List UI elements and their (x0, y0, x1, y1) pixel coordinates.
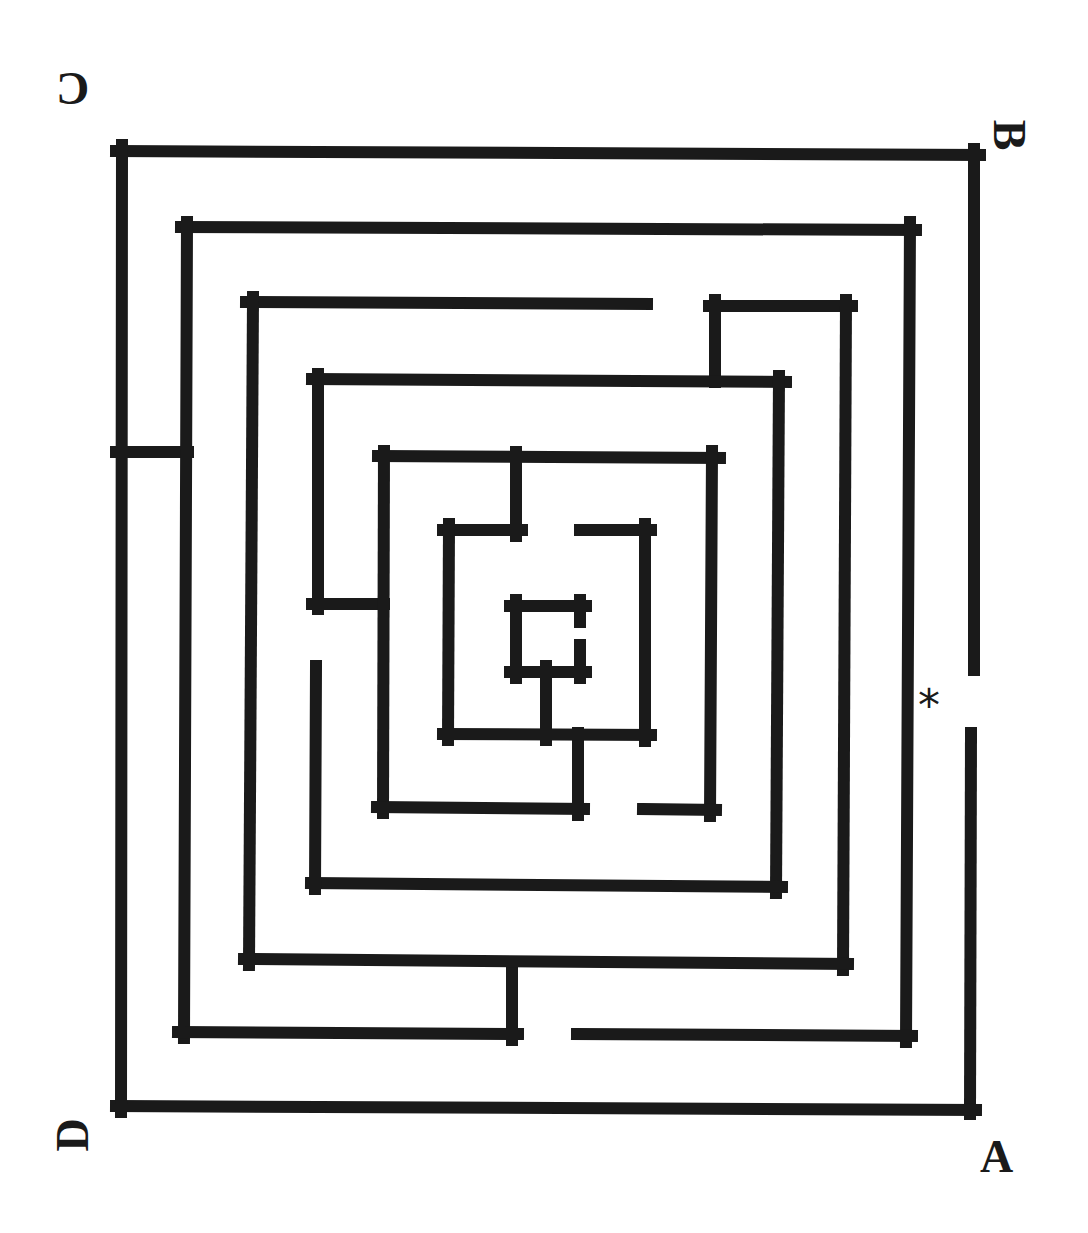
maze-wall-ring5-bottom-left (377, 807, 584, 809)
corner-label-bottom-left: D (50, 1118, 96, 1151)
maze-wall-ring5-top (378, 456, 720, 458)
star-marker-icon: * (918, 684, 940, 728)
corner-label-bottom-right: A (980, 1134, 1013, 1180)
maze-wall-ring2-bottom-left (178, 1032, 518, 1034)
maze-wall-ring6-left (448, 524, 449, 740)
maze-wall-ring3-right (843, 300, 846, 970)
maze (0, 0, 1088, 1233)
corner-label-top-left: C (56, 66, 89, 112)
maze-wall-ring3-bottom (244, 959, 848, 964)
maze-wall-ring5-right (710, 451, 712, 816)
maze-wall-ring4-left-lower (315, 666, 316, 889)
maze-wall-ring5-bottom-right (643, 809, 716, 810)
corner-label-top-right: B (986, 120, 1032, 151)
maze-wall-ring3-left (249, 297, 253, 965)
maze-wall-outer-left (121, 145, 122, 1112)
maze-wall-ring2-top (181, 227, 916, 230)
maze-wall-outer-bottom (116, 1106, 976, 1110)
maze-wall-ring4-right (776, 376, 779, 893)
maze-wall-outer-top (116, 151, 980, 155)
maze-wall-ring4-bottom (311, 883, 782, 887)
maze-wall-ring2-bottom-right (577, 1034, 912, 1036)
maze-wall-ring4-top (312, 379, 786, 382)
maze-wall-outer-right-lower (970, 733, 971, 1114)
maze-wall-ring2-left (184, 222, 187, 1038)
maze-wall-ring3-top-left (246, 302, 647, 304)
maze-wall-ring5-left (383, 451, 384, 813)
maze-wall-ring2-right (906, 222, 910, 1042)
maze-walls (116, 145, 980, 1114)
